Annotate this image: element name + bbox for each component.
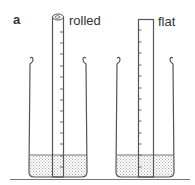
left-beaker	[29, 57, 87, 177]
right-beaker	[116, 57, 174, 177]
chromatography-diagram	[0, 0, 195, 185]
right-liquid	[117, 155, 174, 177]
rolled-column	[53, 14, 64, 177]
flat-column	[139, 20, 154, 178]
left-liquid	[30, 155, 87, 177]
